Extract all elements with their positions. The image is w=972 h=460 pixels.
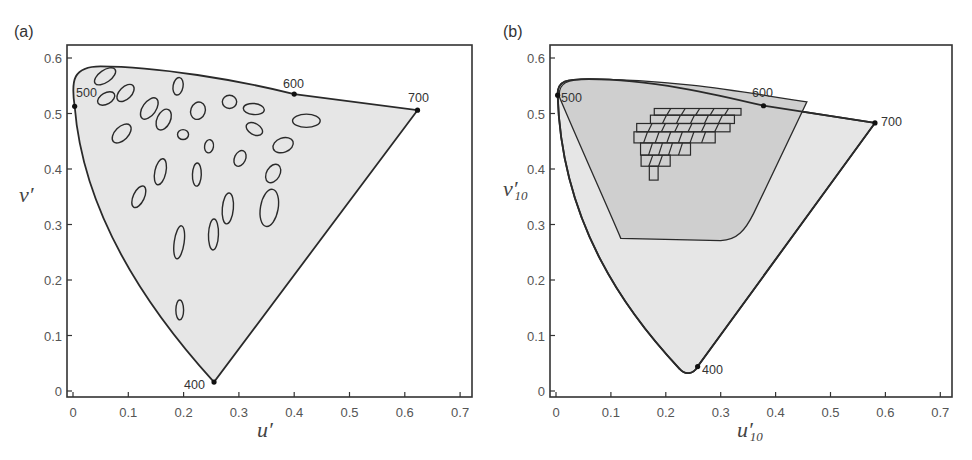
x-tick-label: 0 — [552, 405, 559, 420]
panel-label-a: (a) — [14, 23, 34, 40]
x-tick-label: 0.3 — [712, 405, 730, 420]
x-tick-label: 0.6 — [876, 405, 894, 420]
y-axis-title-b: v′10 — [503, 176, 528, 203]
x-tick-label: 0.6 — [396, 405, 414, 420]
wavelength-marker — [555, 93, 560, 98]
x-tick-label: 0.4 — [767, 405, 785, 420]
x-tick-label: 0.7 — [931, 405, 949, 420]
wavelength-marker — [211, 380, 216, 385]
panel-a: (a) 500 600 700 400 00.10.20.30.40.50.60… — [14, 23, 472, 442]
wavelength-label-700-a: 700 — [408, 91, 429, 105]
wavelength-label-600-a: 600 — [283, 77, 304, 91]
y-tick-label: 0.4 — [44, 162, 62, 177]
x-tick-label: 0.2 — [657, 405, 675, 420]
y-tick-label: 0 — [538, 384, 545, 399]
chart-canvas: (a) 500 600 700 400 00.10.20.30.40.50.60… — [0, 0, 972, 460]
wavelength-marker — [872, 120, 877, 125]
y-tick-label: 0.5 — [527, 107, 545, 122]
x-tick-label: 0.5 — [340, 405, 358, 420]
wavelength-marker — [761, 103, 766, 108]
wavelength-marker — [72, 104, 77, 109]
y-axis-title-a: v′ — [19, 182, 35, 207]
wavelength-label-500-a: 500 — [76, 86, 97, 100]
y-tick-label: 0 — [55, 384, 62, 399]
y-tick-label: 0.5 — [44, 107, 62, 122]
wavelength-label-600-b: 600 — [752, 86, 773, 100]
panel-b: (b) 500 600 700 400 00.10.20.30.40.50.60… — [503, 23, 952, 444]
x-tick-label: 0 — [69, 405, 76, 420]
spectral-locus-region-a — [73, 66, 417, 382]
y-tick-label: 0.3 — [527, 218, 545, 233]
wavelength-label-400-a: 400 — [184, 378, 205, 392]
x-tick-label: 0.4 — [285, 405, 303, 420]
x-axis-title-b: u′10 — [737, 417, 763, 444]
x-tick-label: 0.1 — [602, 405, 620, 420]
y-tick-label: 0.6 — [44, 51, 62, 66]
y-tick-label: 0.1 — [44, 329, 62, 344]
wavelength-label-500-b: 500 — [561, 91, 582, 105]
wavelength-marker — [415, 108, 420, 113]
wavelength-marker — [292, 91, 297, 96]
x-axis-title-a: u′ — [257, 417, 274, 442]
spectral-locus-a — [73, 66, 417, 382]
x-tick-label: 0.3 — [230, 405, 248, 420]
y-tick-label: 0.6 — [527, 51, 545, 66]
y-tick-label: 0.2 — [44, 273, 62, 288]
x-tick-label: 0.1 — [119, 405, 137, 420]
wavelength-marker — [695, 364, 700, 369]
y-tick-label: 0.1 — [527, 329, 545, 344]
y-tick-label: 0.2 — [527, 273, 545, 288]
x-tick-label: 0.7 — [451, 405, 469, 420]
y-tick-label: 0.3 — [44, 218, 62, 233]
wavelength-label-400-b: 400 — [702, 363, 723, 377]
x-tick-label: 0.2 — [175, 405, 193, 420]
y-tick-label: 0.4 — [527, 162, 545, 177]
panel-label-b: (b) — [503, 23, 523, 40]
wavelength-label-700-b: 700 — [881, 115, 902, 129]
x-tick-label: 0.5 — [821, 405, 839, 420]
